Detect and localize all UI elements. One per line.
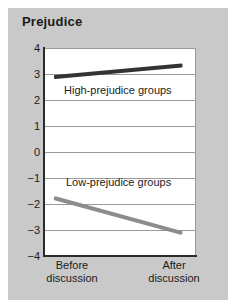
ytick-label-neg1: −1 — [16, 173, 40, 184]
gridline-0 — [44, 152, 196, 153]
chart-figure: Prejudice High-prejudice groups Low-prej… — [0, 0, 236, 307]
y-axis-tick-labels: 4 3 2 1 0 −1 −2 −3 −4 — [14, 48, 40, 256]
xtick-before-line2: discussion — [36, 272, 108, 285]
gridline-2 — [44, 100, 196, 101]
y-axis-spine — [43, 47, 45, 257]
xtick-label-before: Before discussion — [36, 259, 108, 285]
ytick-label-neg2: −2 — [16, 199, 40, 210]
xtick-label-after: After discussion — [138, 259, 210, 285]
series-label-high-prejudice: High-prejudice groups — [64, 84, 172, 96]
ytick-label-neg3: −3 — [16, 225, 40, 236]
ytick-label-3: 3 — [16, 69, 40, 80]
xtick-after-line2: discussion — [138, 272, 210, 285]
series-line-high-prejudice — [54, 63, 183, 79]
gridline-1 — [44, 126, 196, 127]
plot-right-border — [195, 48, 196, 256]
ytick-label-2: 2 — [16, 95, 40, 106]
page-title: Prejudice — [22, 14, 82, 29]
xtick-before-line1: Before — [36, 259, 108, 272]
ytick-label-1: 1 — [16, 121, 40, 132]
series-label-low-prejudice: Low-prejudice groups — [66, 176, 171, 188]
ytick-label-4: 4 — [16, 43, 40, 54]
xtick-after-line1: After — [138, 259, 210, 272]
gridline-4 — [44, 48, 196, 49]
gridline-neg2 — [44, 204, 196, 205]
x-axis-spine — [43, 255, 197, 257]
ytick-label-0: 0 — [16, 147, 40, 158]
plot-area: High-prejudice groups Low-prejudice grou… — [44, 48, 196, 256]
